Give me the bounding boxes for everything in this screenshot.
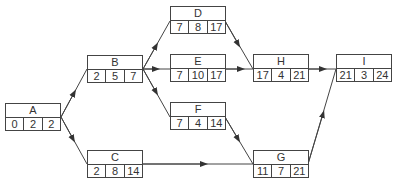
early-start: 7 bbox=[171, 117, 189, 130]
node-d: D 7 8 17 bbox=[170, 6, 226, 34]
node-h: H 17 4 21 bbox=[253, 54, 309, 82]
duration: 2 bbox=[24, 118, 42, 131]
node-label: F bbox=[171, 103, 225, 117]
early-start: 21 bbox=[337, 69, 355, 82]
early-start: 2 bbox=[88, 165, 106, 178]
early-start: 11 bbox=[254, 165, 272, 178]
early-start: 17 bbox=[254, 69, 272, 82]
node-f: F 7 4 14 bbox=[170, 102, 226, 130]
early-finish: 14 bbox=[125, 165, 142, 178]
early-start: 0 bbox=[6, 118, 24, 131]
node-label: C bbox=[88, 151, 142, 165]
node-label: I bbox=[337, 55, 391, 69]
early-finish: 2 bbox=[43, 118, 60, 131]
duration: 8 bbox=[106, 165, 124, 178]
node-label: E bbox=[171, 55, 225, 69]
node-label: G bbox=[254, 151, 308, 165]
early-finish: 17 bbox=[208, 21, 225, 34]
node-label: H bbox=[254, 55, 308, 69]
node-label: D bbox=[171, 7, 225, 21]
early-finish: 14 bbox=[208, 117, 225, 130]
duration: 3 bbox=[355, 69, 373, 82]
node-g: G 11 7 21 bbox=[253, 150, 309, 178]
early-finish: 7 bbox=[125, 70, 142, 83]
early-start: 2 bbox=[88, 70, 106, 83]
duration: 4 bbox=[189, 117, 207, 130]
duration: 7 bbox=[272, 165, 290, 178]
duration: 10 bbox=[189, 69, 207, 82]
early-finish: 17 bbox=[208, 69, 225, 82]
node-label: B bbox=[88, 56, 142, 70]
early-start: 7 bbox=[171, 21, 189, 34]
early-finish: 24 bbox=[374, 69, 391, 82]
early-finish: 21 bbox=[291, 165, 308, 178]
duration: 5 bbox=[106, 70, 124, 83]
early-finish: 21 bbox=[291, 69, 308, 82]
node-e: E 7 10 17 bbox=[170, 54, 226, 82]
node-a: A 0 2 2 bbox=[5, 103, 61, 131]
node-i: I 21 3 24 bbox=[336, 54, 392, 82]
node-b: B 2 5 7 bbox=[87, 55, 143, 83]
duration: 4 bbox=[272, 69, 290, 82]
node-c: C 2 8 14 bbox=[87, 150, 143, 178]
node-label: A bbox=[6, 104, 60, 118]
early-start: 7 bbox=[171, 69, 189, 82]
duration: 8 bbox=[189, 21, 207, 34]
